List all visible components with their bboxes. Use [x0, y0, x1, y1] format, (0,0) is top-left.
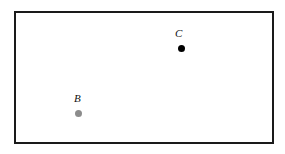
point-c-label: C: [175, 28, 182, 39]
bounding-rectangle: [14, 11, 274, 144]
diagram-canvas: C B: [0, 0, 285, 154]
point-b-marker: [75, 110, 82, 117]
point-b-label: B: [74, 93, 81, 104]
point-c-marker: [178, 45, 185, 52]
